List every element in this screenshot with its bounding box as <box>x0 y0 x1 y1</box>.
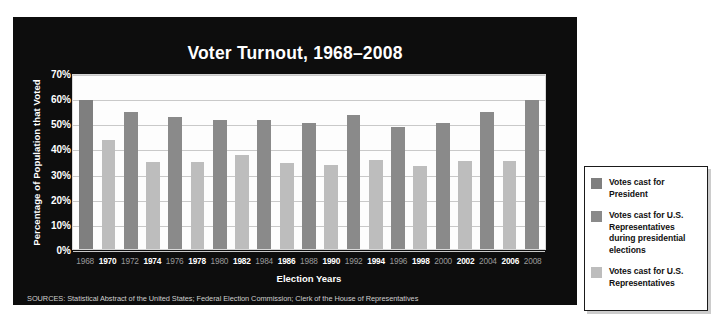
x-tick-label: 1976 <box>164 254 186 270</box>
bar-1974 <box>146 162 160 249</box>
bar-slot <box>476 75 498 249</box>
bar-slot <box>142 75 164 249</box>
bar-slot <box>342 75 364 249</box>
gridline <box>73 251 545 252</box>
bar-slot <box>320 75 342 249</box>
bar-slot <box>365 75 387 249</box>
x-tick-label: 1980 <box>208 254 230 270</box>
bar-1988 <box>302 123 316 249</box>
bar-slot <box>521 75 543 249</box>
bar-2004 <box>480 112 494 249</box>
bar-1968 <box>79 100 93 249</box>
legend-swatch-icon <box>591 211 602 222</box>
bar-slot <box>298 75 320 249</box>
bar-1984 <box>257 120 271 249</box>
bar-1990 <box>324 165 338 250</box>
legend-label: Votes cast for President <box>609 177 701 200</box>
x-tick-label: 1970 <box>96 254 118 270</box>
x-tick-label: 2006 <box>499 254 521 270</box>
x-tick-label: 1968 <box>74 254 96 270</box>
bar-1980 <box>213 120 227 249</box>
bar-1994 <box>369 160 383 249</box>
legend: Votes cast for PresidentVotes cast for U… <box>584 166 708 311</box>
y-tick-label: 60% <box>29 94 71 105</box>
sources-note: SOURCES: Statistical Abstract of the Uni… <box>27 294 418 303</box>
plot-area <box>72 74 546 250</box>
x-tick-label: 1998 <box>410 254 432 270</box>
y-tick-label: 30% <box>29 169 71 180</box>
bar-1976 <box>168 117 182 249</box>
bar-slot <box>276 75 298 249</box>
bar-slot <box>75 75 97 249</box>
bar-slot <box>409 75 431 249</box>
bar-1996 <box>391 127 405 249</box>
chart-panel: Voter Turnout, 1968–2008 Percentage of P… <box>13 17 577 305</box>
legend-item: Votes cast for U.S. Representatives <box>591 266 701 289</box>
bar-slot <box>186 75 208 249</box>
bar-1982 <box>235 155 249 249</box>
bar-slot <box>209 75 231 249</box>
x-tick-label: 2008 <box>522 254 544 270</box>
x-tick-label: 2000 <box>432 254 454 270</box>
y-tick-label: 20% <box>29 194 71 205</box>
y-tick-label: 0% <box>29 245 71 256</box>
x-tick-label: 1986 <box>275 254 297 270</box>
x-tick-label: 1988 <box>298 254 320 270</box>
legend-item: Votes cast for U.S. Representatives duri… <box>591 210 701 256</box>
x-tick-label: 1992 <box>343 254 365 270</box>
bar-slot <box>120 75 142 249</box>
bar-1970 <box>102 140 116 249</box>
bar-slot <box>164 75 186 249</box>
legend-label: Votes cast for U.S. Representatives <box>609 266 701 289</box>
x-tick-label: 1972 <box>119 254 141 270</box>
x-tick-label: 1990 <box>320 254 342 270</box>
y-tick-label: 50% <box>29 119 71 130</box>
x-tick-label: 1978 <box>186 254 208 270</box>
x-tick-label: 1996 <box>387 254 409 270</box>
y-axis-tick-labels: 70%60%50%40%30%20%10%0% <box>29 67 71 257</box>
x-axis-title: Election Years <box>72 273 546 284</box>
bar-2002 <box>458 161 472 249</box>
bar-1986 <box>280 163 294 249</box>
x-tick-label: 2004 <box>477 254 499 270</box>
legend-item: Votes cast for President <box>591 177 701 200</box>
bar-2006 <box>503 161 517 249</box>
bar-1978 <box>191 162 205 249</box>
x-axis-tick-labels: 1968197019721974197619781980198219841986… <box>72 254 546 270</box>
bar-slot <box>253 75 275 249</box>
legend-swatch-icon <box>591 267 602 278</box>
y-tick-label: 70% <box>29 69 71 80</box>
bar-1972 <box>124 112 138 249</box>
y-tick-label: 10% <box>29 219 71 230</box>
chart-title: Voter Turnout, 1968–2008 <box>13 43 577 64</box>
x-tick-label: 1974 <box>141 254 163 270</box>
bar-slot <box>432 75 454 249</box>
bar-slot <box>454 75 476 249</box>
bar-1998 <box>413 166 427 249</box>
bar-2000 <box>436 123 450 249</box>
bar-1992 <box>347 115 361 249</box>
x-tick-label: 2002 <box>454 254 476 270</box>
x-tick-label: 1982 <box>231 254 253 270</box>
x-tick-label: 1994 <box>365 254 387 270</box>
bar-slot <box>387 75 409 249</box>
bar-slot <box>498 75 520 249</box>
bar-slot <box>97 75 119 249</box>
legend-label: Votes cast for U.S. Representatives duri… <box>609 210 701 256</box>
bar-series <box>73 75 545 249</box>
x-tick-label: 1984 <box>253 254 275 270</box>
legend-swatch-icon <box>591 178 602 189</box>
bar-slot <box>231 75 253 249</box>
y-tick-label: 40% <box>29 144 71 155</box>
bar-2008 <box>525 100 539 249</box>
